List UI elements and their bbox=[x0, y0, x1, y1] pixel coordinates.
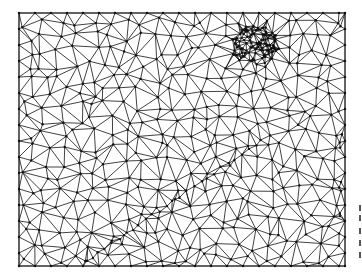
mesh-node bbox=[305, 128, 307, 130]
mesh-node bbox=[298, 54, 300, 56]
mesh-node bbox=[88, 60, 90, 62]
mesh-node bbox=[248, 148, 250, 150]
mesh-node bbox=[62, 216, 64, 218]
mesh-node bbox=[26, 114, 28, 116]
mesh-node bbox=[76, 65, 78, 67]
mesh-node bbox=[219, 166, 221, 168]
mesh-node bbox=[290, 12, 292, 14]
mesh-node bbox=[98, 12, 100, 14]
mesh-node bbox=[248, 51, 250, 53]
mesh-node bbox=[305, 233, 307, 235]
mesh-node bbox=[65, 86, 67, 88]
mesh-node bbox=[47, 177, 49, 179]
mesh-node bbox=[303, 155, 305, 157]
mesh-node bbox=[23, 100, 25, 102]
mesh-node bbox=[316, 178, 318, 180]
mesh-node bbox=[140, 213, 142, 215]
mesh-node bbox=[233, 226, 235, 228]
mesh-node bbox=[235, 147, 237, 149]
mesh-node bbox=[297, 74, 299, 76]
mesh-node bbox=[264, 55, 266, 57]
margin-mark bbox=[359, 252, 361, 258]
mesh-node bbox=[246, 36, 248, 38]
mesh-node bbox=[208, 58, 210, 60]
mesh-node bbox=[264, 66, 266, 68]
mesh-node bbox=[344, 76, 346, 78]
mesh-node bbox=[297, 124, 299, 126]
mesh-node bbox=[251, 46, 253, 48]
mesh-node bbox=[298, 184, 300, 186]
mesh-node bbox=[41, 107, 43, 109]
mesh-node bbox=[245, 26, 247, 28]
mesh-node bbox=[236, 218, 238, 220]
mesh-node bbox=[229, 164, 231, 166]
mesh-node bbox=[87, 199, 89, 201]
mesh-node bbox=[54, 206, 56, 208]
mesh-node bbox=[107, 186, 109, 188]
mesh-node bbox=[251, 30, 253, 32]
mesh-node bbox=[97, 251, 99, 253]
mesh-node bbox=[193, 185, 195, 187]
mesh-node bbox=[210, 12, 212, 14]
mesh-node bbox=[201, 180, 203, 182]
mesh-node bbox=[266, 44, 268, 46]
mesh-node bbox=[238, 40, 240, 42]
mesh-node bbox=[250, 90, 252, 92]
mesh-node bbox=[90, 103, 92, 105]
mesh-node bbox=[267, 144, 269, 146]
mesh-node bbox=[333, 215, 335, 217]
mesh-node bbox=[130, 12, 132, 14]
mesh-node bbox=[329, 34, 331, 36]
mesh-node bbox=[344, 108, 346, 110]
mesh-node bbox=[208, 203, 210, 205]
mesh-node bbox=[178, 265, 180, 267]
mesh-node bbox=[344, 252, 346, 254]
margin-mark bbox=[359, 215, 361, 221]
mesh-node bbox=[255, 144, 257, 146]
mesh-node bbox=[334, 147, 336, 149]
mesh-node bbox=[269, 233, 271, 235]
mesh-node bbox=[310, 214, 312, 216]
mesh-node bbox=[335, 204, 337, 206]
mesh-node bbox=[143, 206, 145, 208]
mesh-node bbox=[344, 220, 346, 222]
mesh-node bbox=[206, 177, 208, 179]
mesh-node bbox=[162, 265, 164, 267]
mesh-node bbox=[110, 23, 112, 25]
mesh-node bbox=[270, 47, 272, 49]
mesh-node bbox=[190, 135, 192, 137]
mesh-node bbox=[231, 38, 233, 40]
mesh-node bbox=[215, 156, 217, 158]
mesh-node bbox=[18, 265, 20, 267]
mesh-node bbox=[137, 135, 139, 137]
mesh-node bbox=[242, 68, 244, 70]
mesh-node bbox=[157, 96, 159, 98]
mesh-node bbox=[18, 156, 20, 158]
mesh-node bbox=[233, 159, 235, 161]
mesh-node bbox=[210, 265, 212, 267]
mesh-node bbox=[344, 44, 346, 46]
mesh-node bbox=[21, 26, 23, 28]
mesh-node bbox=[60, 35, 62, 37]
mesh-node bbox=[302, 261, 304, 263]
mesh-node bbox=[236, 46, 238, 48]
mesh-node bbox=[317, 34, 319, 36]
mesh-node bbox=[280, 255, 282, 257]
mesh-node bbox=[338, 232, 340, 234]
mesh-node bbox=[199, 22, 201, 24]
mesh-node bbox=[139, 78, 141, 80]
mesh-node bbox=[154, 232, 156, 234]
mesh-node bbox=[269, 134, 271, 136]
mesh-node bbox=[253, 33, 255, 35]
mesh-node bbox=[344, 60, 346, 62]
mesh-node bbox=[225, 35, 227, 37]
mesh-node bbox=[344, 204, 346, 206]
mesh-node bbox=[249, 36, 251, 38]
mesh-node bbox=[222, 227, 224, 229]
mesh-node bbox=[146, 265, 148, 267]
mesh-node bbox=[232, 52, 234, 54]
mesh-node bbox=[337, 110, 339, 112]
mesh-node bbox=[344, 140, 346, 142]
mesh-node bbox=[328, 92, 330, 94]
mesh-node bbox=[247, 145, 249, 147]
